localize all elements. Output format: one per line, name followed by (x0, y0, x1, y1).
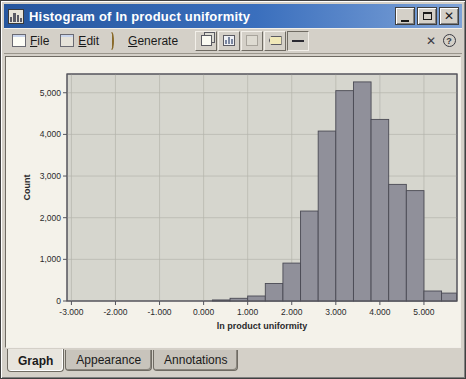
x-tick-label: 4.000 (369, 307, 391, 317)
x-tick-label: -1.000 (147, 307, 171, 317)
histogram-bar (424, 291, 442, 301)
y-tick-label: 4,000 (40, 129, 62, 139)
histogram-window-icon (8, 9, 24, 24)
toolbar-tag-button[interactable] (264, 31, 286, 51)
menu-edit-rest: dit (86, 34, 99, 48)
y-axis-title: Count (22, 175, 32, 201)
menu-generate-rest: enerate (137, 34, 178, 48)
toolbar-chart-button[interactable] (218, 31, 240, 51)
x-tick-label: 0.000 (193, 307, 215, 317)
minimize-icon (401, 20, 409, 22)
x-tick-label: -2.000 (103, 307, 127, 317)
histogram-bar (318, 131, 336, 301)
x-axis-title: ln product uniformity (217, 321, 308, 331)
histogram-bar (336, 91, 354, 301)
close-icon: ✕ (444, 10, 454, 22)
maximize-button[interactable] (417, 7, 437, 25)
menu-generate[interactable]: Generate (106, 32, 185, 50)
title-bar[interactable]: Histogram of ln product uniformity ✕ (4, 4, 462, 28)
histogram-bar (389, 184, 407, 301)
tab-graph[interactable]: Graph (7, 349, 64, 372)
histogram-bar (406, 191, 424, 301)
tag-icon (269, 36, 282, 45)
y-tick-label: 2,000 (40, 213, 62, 223)
app-window: Histogram of ln product uniformity ✕ Fil… (0, 0, 466, 379)
disabled-page-icon (246, 35, 258, 46)
menu-bar: File Edit Generate ✕ ? (4, 28, 462, 54)
menu-file[interactable]: File (8, 32, 56, 50)
tab-appearance[interactable]: Appearance (65, 350, 152, 371)
minimize-button[interactable] (395, 7, 415, 25)
help-icon: ? (443, 34, 456, 47)
copy-pages-icon (201, 35, 212, 46)
edit-menu-icon (60, 34, 74, 47)
x-tick-label: 3.000 (325, 307, 347, 317)
window-title: Histogram of ln product uniformity (29, 9, 393, 24)
histogram-chart: -3.000-2.000-1.0000.0001.0002.0003.0004.… (6, 57, 461, 348)
toolbar-legend-button[interactable] (287, 31, 309, 51)
x-tick-label: 1.000 (237, 307, 259, 317)
histogram-bar (353, 82, 371, 301)
panel-close-button[interactable]: ✕ (422, 32, 440, 50)
generate-menu-icon (110, 34, 124, 47)
menu-file-rest: ile (37, 34, 49, 48)
histogram-bar (248, 296, 266, 301)
toolbar-disabled-button[interactable] (241, 31, 263, 51)
y-tick-label: 5,000 (40, 88, 62, 98)
menu-generate-label: Generate (128, 34, 178, 48)
panel-close-icon: ✕ (426, 34, 436, 48)
histogram-bar (265, 284, 283, 301)
histogram-bar (371, 119, 389, 301)
x-tick-label: 5.000 (413, 307, 435, 317)
y-tick-label: 1,000 (40, 254, 62, 264)
menu-edit-label: Edit (78, 34, 99, 48)
menu-edit[interactable]: Edit (56, 32, 106, 50)
maximize-icon (423, 12, 432, 20)
tab-strip: Graph Appearance Annotations (5, 350, 239, 374)
menu-file-label: File (30, 34, 49, 48)
histogram-bar (283, 263, 301, 301)
chart-icon (223, 35, 235, 46)
tab-annotations[interactable]: Annotations (153, 350, 238, 371)
y-tick-label: 0 (56, 296, 61, 306)
y-tick-label: 3,000 (40, 171, 62, 181)
legend-line-icon (292, 40, 304, 42)
histogram-bar (301, 211, 319, 301)
chart-panel: -3.000-2.000-1.0000.0001.0002.0003.0004.… (5, 56, 461, 348)
file-menu-icon (12, 34, 26, 47)
help-button[interactable]: ? (440, 32, 458, 50)
toolbar-copy-pages-button[interactable] (195, 31, 217, 51)
x-tick-label: -3.000 (59, 307, 83, 317)
close-button[interactable]: ✕ (439, 7, 459, 25)
x-tick-label: 2.000 (281, 307, 303, 317)
histogram-bar (442, 293, 457, 301)
